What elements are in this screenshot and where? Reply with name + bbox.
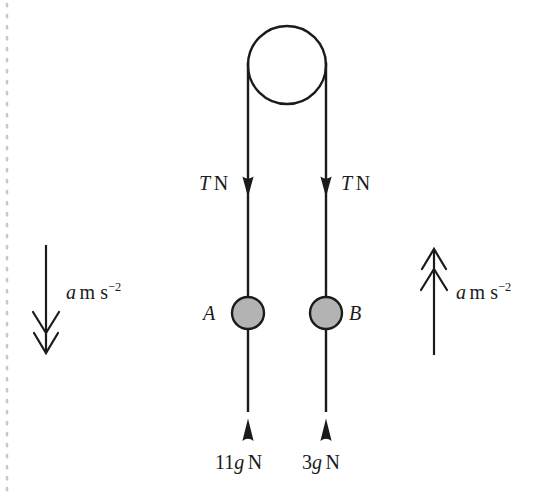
acceleration-arrow-left bbox=[33, 245, 59, 353]
tension-symbol-left: T bbox=[199, 172, 210, 194]
acceleration-units-right: m s bbox=[470, 281, 498, 303]
acceleration-units-left: m s bbox=[80, 281, 108, 303]
mass-label-b: B bbox=[349, 303, 361, 323]
mass-a bbox=[232, 297, 264, 329]
acceleration-symbol-left: a bbox=[66, 281, 76, 303]
weight-unit-left: N bbox=[248, 451, 262, 473]
mass-b bbox=[310, 297, 342, 329]
weight-label-left: 11gN bbox=[215, 452, 262, 472]
weight-coefficient-left: 11 bbox=[215, 451, 234, 473]
diagram-canvas bbox=[0, 0, 549, 494]
acceleration-symbol-right: a bbox=[456, 281, 466, 303]
weight-symbol-left: g bbox=[234, 451, 244, 473]
weight-arrow-left bbox=[242, 419, 253, 442]
acceleration-label-left: am s−2 bbox=[66, 281, 121, 302]
weight-unit-right: N bbox=[326, 451, 340, 473]
tension-label-left: TN bbox=[199, 173, 228, 193]
pulley-wheel bbox=[248, 26, 326, 104]
acceleration-exponent-left: −2 bbox=[108, 280, 121, 294]
tension-symbol-right: T bbox=[341, 172, 352, 194]
weight-coefficient-right: 3 bbox=[302, 451, 312, 473]
tension-unit-right: N bbox=[356, 172, 370, 194]
tension-arrow-right bbox=[320, 177, 331, 198]
acceleration-exponent-right: −2 bbox=[498, 280, 511, 294]
tension-arrow-left bbox=[242, 177, 253, 198]
tension-label-right: TN bbox=[341, 173, 370, 193]
acceleration-arrow-right bbox=[421, 249, 447, 355]
weight-symbol-right: g bbox=[312, 451, 322, 473]
acceleration-label-right: am s−2 bbox=[456, 281, 511, 302]
tension-unit-left: N bbox=[214, 172, 228, 194]
weight-arrow-right bbox=[320, 419, 331, 442]
mass-label-a: A bbox=[203, 303, 215, 323]
pulley-diagram: TN TN A B 11gN 3gN am s−2 am s−2 bbox=[0, 0, 549, 494]
weight-label-right: 3gN bbox=[302, 452, 340, 472]
